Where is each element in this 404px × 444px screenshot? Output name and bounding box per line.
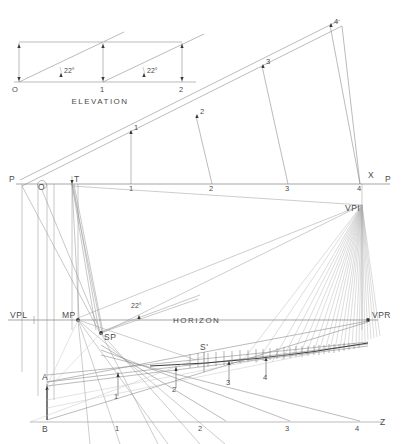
mp-label: MP	[62, 310, 76, 320]
extra-line-5	[47, 333, 101, 390]
mp-sp-ground-rays	[78, 320, 225, 444]
mp-ray-2	[78, 320, 168, 444]
pp-tick-4: 4	[357, 184, 361, 193]
arrow-down-o	[17, 77, 20, 81]
arrow-post-2	[174, 367, 177, 371]
extra-line-3	[30, 356, 204, 422]
ground-tick-4: 4	[355, 424, 359, 433]
vpi-ray-03	[291, 205, 362, 358]
vpi-ray-10	[335, 205, 362, 349]
mp-ray-4	[78, 320, 196, 360]
ground-tick-1: 1	[115, 424, 119, 433]
vpi-ray-to-ppleft	[72, 186, 362, 205]
arrow-angle-1	[59, 73, 62, 77]
ground-label-sprime: S'	[200, 342, 209, 352]
vpi-long-rays	[72, 184, 362, 334]
ground-tick-3: 3	[285, 424, 289, 433]
pp-tick-3: 3	[285, 184, 289, 193]
elevation-incline-1	[19, 32, 124, 82]
elevation-angle-label-2: 22°	[147, 67, 158, 74]
elevation-tick-1: 1	[100, 85, 104, 94]
inclined-tick-3: 3	[266, 57, 270, 66]
inclined-upper-edge	[20, 20, 340, 180]
ground-label-z: Z	[380, 417, 386, 427]
ground-label-a: A	[42, 372, 48, 382]
arrow-up-o	[17, 44, 20, 48]
vpi-ray-24	[240, 205, 362, 364]
horizon-angle-ray	[100, 295, 200, 332]
ray-p-to-sp	[22, 186, 100, 333]
horizon-angle-label: 22°	[131, 302, 142, 309]
sp-label: SP	[104, 332, 116, 342]
vpi-ray-01	[272, 205, 362, 362]
elevation-title: ELEVATION	[71, 97, 128, 106]
vpi-label: VPI	[345, 203, 360, 213]
vpi-ray-fan	[240, 205, 380, 364]
mp-ray-3	[78, 320, 225, 444]
pp-tick-1: 1	[129, 184, 133, 193]
pp-station-label: T	[74, 174, 80, 184]
pp-corner-label: X	[368, 170, 374, 180]
ray-t-fan-b	[73, 184, 99, 331]
left-vertical-projectors	[22, 184, 78, 420]
arrow-up-1	[101, 44, 104, 48]
pp-origin-label: O	[38, 182, 45, 192]
elevation-dimension-arrows	[17, 44, 183, 81]
ground-construction	[30, 321, 382, 422]
vpi-ray-to-sp	[100, 205, 362, 334]
perspective-tick-2: 2	[172, 385, 176, 394]
pp-label-right: P	[385, 174, 391, 184]
perspective-post-arrows	[45, 357, 267, 390]
vpi-ray-to-mp	[78, 205, 362, 318]
inclined-rib-3	[262, 66, 288, 184]
elevation-diagram	[14, 32, 204, 82]
horizon-angle-construction	[100, 295, 200, 333]
elevation-tick-2: 2	[179, 85, 183, 94]
perspective-tick-hatching	[190, 343, 359, 368]
z-ray-3	[101, 345, 226, 421]
inclined-tick-4: 4	[334, 17, 338, 26]
pp-label-left: P	[9, 174, 15, 184]
inclined-right-edge	[342, 26, 360, 184]
vpi-ray-07	[319, 205, 362, 352]
elevation-tick-o: O	[12, 85, 18, 94]
drawing-sheet: O 1 2 22° 22° ELEVATION 1 2 3 4	[0, 0, 404, 444]
inclined-rib-4	[330, 25, 360, 184]
elevation-angle-label-1: 22°	[64, 67, 75, 74]
inclined-tick-2: 2	[200, 107, 204, 116]
arrow-down-2	[180, 77, 183, 81]
perspective-tick-4: 4	[263, 373, 267, 382]
horizon-label: HORIZON	[173, 316, 220, 325]
arrow-inclined-2	[195, 114, 198, 118]
inclined-tick-1: 1	[134, 123, 138, 132]
extra-line-4	[47, 320, 78, 386]
elevation-incline-2	[103, 34, 204, 82]
z-ray-2	[101, 350, 290, 421]
vpr-label: VPR	[372, 310, 391, 320]
perspective-construction-diagram: O 1 2 22° 22° ELEVATION 1 2 3 4	[0, 0, 404, 444]
ground-label-b: B	[42, 424, 48, 434]
pp-tick-2: 2	[209, 184, 213, 193]
ground-tick-2: 2	[198, 424, 202, 433]
perspective-tick-3: 3	[226, 378, 230, 387]
arrow-up-2	[180, 44, 183, 48]
vpl-label: VPL	[10, 310, 28, 320]
ray-t-to-sp	[72, 184, 102, 332]
arrow-down-1	[101, 77, 104, 81]
inclined-rib-2	[196, 116, 212, 184]
extra-construction-lines	[30, 320, 330, 422]
arrow-angle-2	[142, 73, 145, 77]
